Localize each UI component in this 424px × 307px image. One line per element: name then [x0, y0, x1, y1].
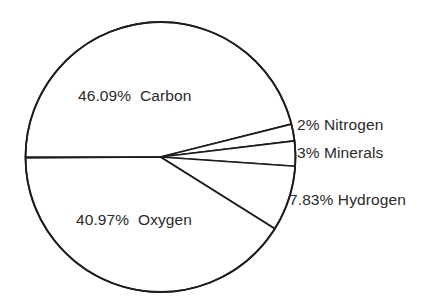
pie-label-minerals: 3% Minerals — [297, 145, 383, 161]
pie-label-oxygen: 40.97% Oxygen — [76, 212, 192, 228]
pie-label-carbon: 46.09% Carbon — [78, 88, 191, 104]
pie-label-hydrogen: 7.83% Hydrogen — [289, 192, 406, 208]
pie-chart: 46.09% Carbon 2% Nitrogen 3% Minerals 7.… — [0, 0, 424, 307]
pie-label-nitrogen: 2% Nitrogen — [297, 117, 383, 133]
pie-slice-group — [26, 22, 296, 292]
